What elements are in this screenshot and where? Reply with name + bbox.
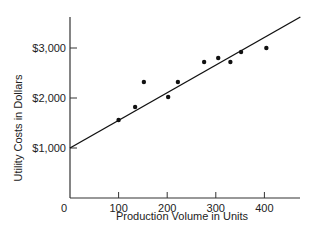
y-tick-label: $2,000 <box>32 92 66 104</box>
data-point <box>202 60 206 64</box>
data-point <box>264 46 268 50</box>
data-point <box>116 118 120 122</box>
data-point <box>166 95 170 99</box>
scatter-chart: 0100200300400$1,000$2,000$3,000 Producti… <box>0 0 317 240</box>
data-point <box>142 80 146 84</box>
regression-line <box>70 17 300 148</box>
data-point <box>133 105 137 109</box>
data-point <box>228 60 232 64</box>
y-tick-label: $3,000 <box>32 42 66 54</box>
data-point <box>216 56 220 60</box>
data-point <box>176 80 180 84</box>
y-tick-label: $1,000 <box>32 142 66 154</box>
y-axis-title: Utility Costs in Dollars <box>12 74 24 181</box>
x-axis-title: Production Volume in Units <box>116 210 249 222</box>
x-tick-label: 0 <box>61 202 67 214</box>
data-point <box>239 50 243 54</box>
axis-ticks: 0100200300400$1,000$2,000$3,000 <box>32 42 273 214</box>
x-tick-label: 400 <box>255 202 273 214</box>
data-points <box>116 46 268 122</box>
axes <box>70 17 300 198</box>
